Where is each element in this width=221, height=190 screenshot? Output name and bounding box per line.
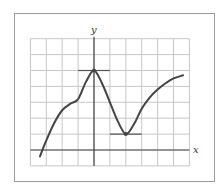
x-axis-label: x	[193, 144, 199, 155]
y-axis-label: y	[90, 24, 97, 35]
function-curve	[40, 70, 183, 156]
extremum-point	[124, 132, 128, 136]
function-graph: x y	[0, 0, 221, 190]
extremum-point	[92, 69, 96, 73]
